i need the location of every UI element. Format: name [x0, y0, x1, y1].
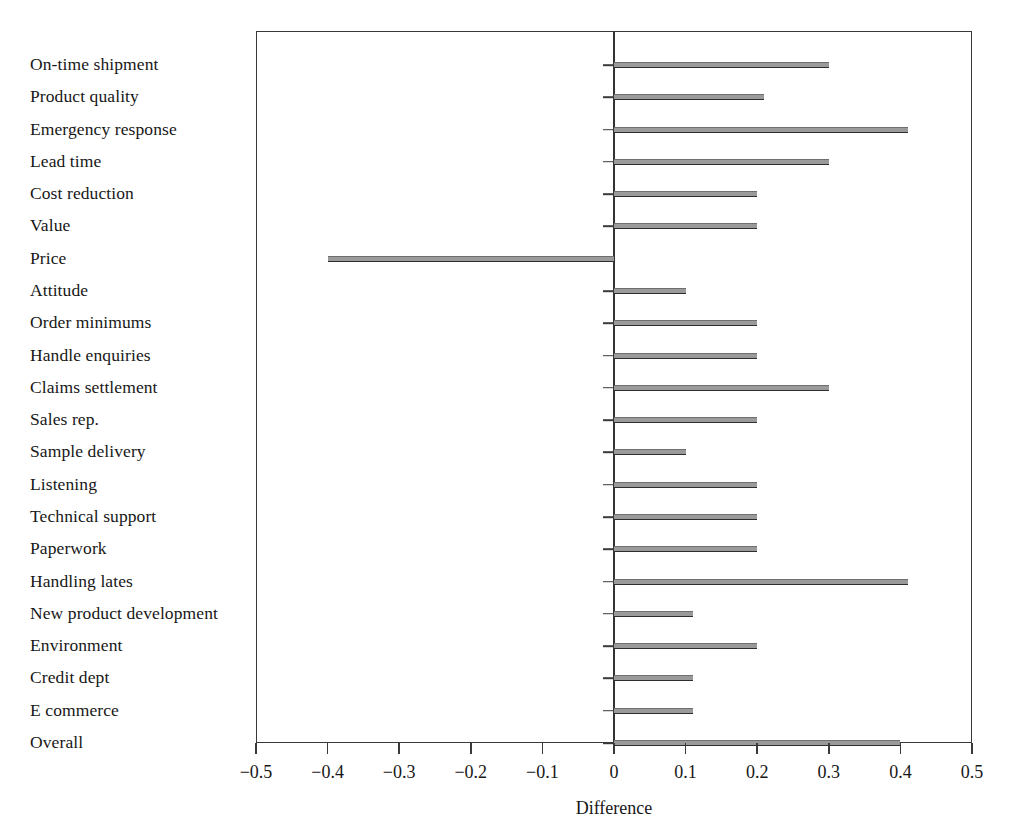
x-axis-tick	[398, 743, 400, 754]
category-label: Listening	[30, 476, 97, 494]
x-axis-tick-label: 0.5	[961, 763, 984, 781]
x-axis-tick	[685, 743, 687, 754]
category-tick-mark	[603, 548, 614, 550]
category-tick-mark	[603, 710, 614, 712]
bar	[614, 643, 757, 649]
bar	[614, 611, 693, 617]
x-axis-tick	[613, 743, 615, 754]
bar	[614, 191, 757, 197]
category-tick-mark	[603, 613, 614, 615]
x-axis-tick	[900, 743, 902, 754]
category-label: Sales rep.	[30, 411, 99, 429]
category-tick-mark	[603, 419, 614, 421]
category-tick-mark	[603, 355, 614, 357]
bar	[614, 708, 693, 714]
bar	[614, 320, 757, 326]
category-label: Cost reduction	[30, 185, 134, 203]
bar	[614, 385, 829, 391]
x-axis-tick-label: −0.2	[454, 763, 487, 781]
category-label: Value	[30, 218, 70, 236]
category-label: Attitude	[30, 282, 88, 300]
x-axis-tick	[327, 743, 329, 754]
category-tick-mark	[603, 290, 614, 292]
x-axis-tick-label: 0.1	[674, 763, 697, 781]
category-label: Order minimums	[30, 315, 151, 333]
category-label: E commerce	[30, 702, 119, 720]
x-axis-tick	[971, 743, 973, 754]
x-axis-tick-label: −0.1	[526, 763, 559, 781]
category-label: On-time shipment	[30, 56, 158, 74]
bar	[614, 94, 764, 100]
x-axis-title: Difference	[576, 799, 653, 817]
category-label: Technical support	[30, 508, 156, 526]
x-axis-tick-label: 0.4	[889, 763, 912, 781]
category-label: Credit dept	[30, 670, 109, 688]
x-axis-tick-label: −0.4	[311, 763, 344, 781]
category-label: Lead time	[30, 153, 101, 171]
x-axis-tick-label: 0.3	[818, 763, 841, 781]
bar	[614, 579, 908, 585]
category-label: Emergency response	[30, 121, 177, 139]
category-label: Product quality	[30, 89, 139, 107]
bar	[614, 449, 686, 455]
bar	[328, 256, 614, 262]
x-axis-tick	[542, 743, 544, 754]
bar	[614, 127, 908, 133]
category-label: Handling lates	[30, 573, 133, 591]
category-tick-mark	[603, 678, 614, 680]
x-axis-tick-label: 0.2	[746, 763, 769, 781]
bar	[614, 482, 757, 488]
category-tick-mark	[603, 516, 614, 518]
category-tick-mark	[603, 129, 614, 131]
bar	[614, 514, 757, 520]
category-label: Sample delivery	[30, 444, 146, 462]
category-tick-mark	[603, 452, 614, 454]
bar	[614, 546, 757, 552]
bar	[614, 353, 757, 359]
x-axis-tick-label: −0.3	[383, 763, 416, 781]
category-tick-mark	[603, 581, 614, 583]
category-tick-mark	[603, 96, 614, 98]
bar	[614, 288, 686, 294]
x-axis-tick	[470, 743, 472, 754]
difference-bar-chart: On-time shipmentProduct qualityEmergency…	[0, 0, 1019, 840]
category-tick-mark	[603, 387, 614, 389]
category-tick-mark	[603, 64, 614, 66]
bar	[614, 223, 757, 229]
x-axis-tick-label: −0.5	[240, 763, 273, 781]
x-axis-tick	[828, 743, 830, 754]
category-label: Environment	[30, 637, 122, 655]
category-tick-mark	[603, 322, 614, 324]
bar	[614, 62, 829, 68]
category-label: Price	[30, 250, 66, 268]
x-axis-tick-label: 0	[610, 763, 619, 781]
category-label: Handle enquiries	[30, 347, 151, 365]
bar	[614, 417, 757, 423]
category-label: Overall	[30, 734, 83, 752]
bar	[614, 159, 829, 165]
category-tick-mark	[603, 193, 614, 195]
x-axis-tick	[255, 743, 257, 754]
category-label: Paperwork	[30, 541, 107, 559]
category-tick-mark	[603, 161, 614, 163]
category-label: Claims settlement	[30, 379, 158, 397]
bar	[614, 675, 693, 681]
x-axis-tick	[756, 743, 758, 754]
category-label: New product development	[30, 605, 218, 623]
category-tick-mark	[603, 484, 614, 486]
category-tick-mark	[603, 226, 614, 228]
category-tick-mark	[603, 645, 614, 647]
